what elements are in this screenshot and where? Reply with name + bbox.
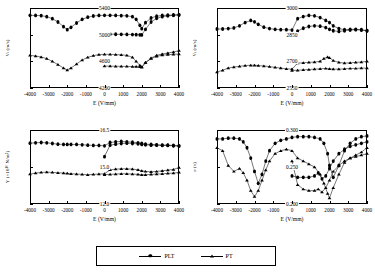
plot-area-3: 0.3000.2500.200-4000-3000-2000-100001000… bbox=[217, 130, 367, 204]
x-tick-mark bbox=[160, 201, 161, 204]
x-tick-mark bbox=[330, 201, 331, 204]
x-tick-label: -1000 bbox=[267, 207, 279, 213]
x-tick-label: 2000 bbox=[324, 207, 334, 213]
x-axis-title: E (V/mm) bbox=[30, 100, 179, 106]
y-tick-mark bbox=[30, 167, 33, 168]
x-tick-label: -1000 bbox=[80, 91, 92, 97]
x-tick-label: -1000 bbox=[267, 91, 279, 97]
x-tick-label: -2000 bbox=[61, 91, 73, 97]
x-axis-title: E (V/mm) bbox=[217, 100, 367, 106]
x-tick-mark bbox=[367, 85, 368, 88]
y-tick-label: 2700 bbox=[286, 58, 299, 64]
x-tick-label: -2000 bbox=[248, 91, 260, 97]
y-tick-mark bbox=[30, 204, 33, 205]
x-tick-label: -3000 bbox=[230, 207, 242, 213]
y-tick-mark bbox=[217, 130, 220, 131]
x-tick-mark bbox=[348, 201, 349, 204]
x-tick-label: -4000 bbox=[211, 207, 223, 213]
legend-label: PLT bbox=[164, 253, 174, 259]
y-tick-label: 3000 bbox=[286, 5, 299, 11]
x-tick-mark bbox=[123, 201, 124, 204]
x-tick-label: 4000 bbox=[362, 91, 372, 97]
y-tick-mark bbox=[217, 35, 220, 36]
x-tick-label: 4000 bbox=[362, 207, 372, 213]
x-tick-label: 4000 bbox=[174, 207, 184, 213]
x-tick-mark bbox=[86, 85, 87, 88]
x-tick-mark bbox=[142, 85, 143, 88]
x-tick-label: 1000 bbox=[118, 91, 128, 97]
x-tick-mark bbox=[311, 85, 312, 88]
y-tick-mark bbox=[217, 61, 220, 62]
panel-bottom-right: σ (ν) 0.3000.2500.200-4000-3000-2000-100… bbox=[187, 122, 375, 238]
x-tick-label: 3000 bbox=[343, 207, 353, 213]
x-tick-mark bbox=[311, 201, 312, 204]
x-tick-mark bbox=[217, 201, 218, 204]
x-tick-mark bbox=[367, 201, 368, 204]
legend-line bbox=[201, 256, 223, 257]
x-tick-label: -2000 bbox=[61, 207, 73, 213]
x-tick-label: 3000 bbox=[155, 91, 165, 97]
y-axis-label: Vₜ (m/s) bbox=[191, 39, 197, 56]
x-tick-mark bbox=[160, 85, 161, 88]
series-canvas-0 bbox=[30, 8, 179, 88]
x-tick-mark bbox=[236, 201, 237, 204]
y-axis-label: σ (ν) bbox=[192, 162, 197, 172]
y-tick-mark bbox=[30, 88, 33, 89]
y-axis-label-holder-0: Vₗ (m/s) bbox=[8, 8, 22, 88]
x-tick-label: -3000 bbox=[43, 207, 55, 213]
y-tick-label: 4600 bbox=[98, 58, 111, 64]
x-tick-mark bbox=[292, 85, 293, 88]
panel-bottom-left: Y (×10¹⁰ N/m²) 16.515.012.0-4000-3000-20… bbox=[0, 122, 187, 238]
panel-grid: Vₗ (m/s) 5400500046004200-4000-3000-2000… bbox=[0, 0, 375, 238]
x-tick-label: 2000 bbox=[324, 91, 334, 97]
x-tick-mark bbox=[348, 85, 349, 88]
x-tick-mark bbox=[67, 85, 68, 88]
y-tick-label: 2850 bbox=[286, 32, 299, 38]
y-tick-mark bbox=[217, 204, 220, 205]
x-tick-label: -4000 bbox=[24, 91, 36, 97]
x-tick-label: 1000 bbox=[306, 91, 316, 97]
circle-marker-icon bbox=[149, 254, 152, 257]
x-tick-label: 3000 bbox=[155, 207, 165, 213]
plot-area-1: 3000285027002550-4000-3000-2000-10000100… bbox=[217, 8, 367, 88]
y-axis-label-holder-2: Y (×10¹⁰ N/m²) bbox=[8, 130, 22, 204]
y-tick-label: 5000 bbox=[98, 32, 111, 38]
x-tick-mark bbox=[236, 85, 237, 88]
y-tick-mark bbox=[30, 130, 33, 131]
x-tick-mark bbox=[179, 85, 180, 88]
x-tick-label: 0 bbox=[103, 207, 106, 213]
x-tick-label: -4000 bbox=[24, 207, 36, 213]
x-tick-mark bbox=[105, 201, 106, 204]
y-tick-label: 5400 bbox=[98, 5, 111, 11]
y-axis-label: Y (×10¹⁰ N/m²) bbox=[4, 151, 10, 183]
x-tick-mark bbox=[292, 201, 293, 204]
x-tick-mark bbox=[49, 201, 50, 204]
x-tick-label: 4000 bbox=[174, 91, 184, 97]
y-axis-label: Vₗ (m/s) bbox=[4, 39, 10, 56]
legend: PLTPT bbox=[96, 246, 276, 266]
x-tick-label: 0 bbox=[291, 91, 294, 97]
x-tick-mark bbox=[123, 85, 124, 88]
y-axis-label-holder-3: σ (ν) bbox=[195, 130, 209, 204]
legend-item: PT bbox=[201, 253, 233, 259]
x-tick-mark bbox=[179, 201, 180, 204]
x-tick-mark bbox=[30, 85, 31, 88]
y-tick-mark bbox=[30, 35, 33, 36]
legend-line bbox=[139, 256, 161, 257]
plot-area-0: 5400500046004200-4000-3000-2000-10000100… bbox=[30, 8, 179, 88]
x-tick-label: -1000 bbox=[80, 207, 92, 213]
y-axis-label-holder-1: Vₜ (m/s) bbox=[195, 8, 209, 88]
x-tick-mark bbox=[255, 85, 256, 88]
y-tick-mark bbox=[217, 88, 220, 89]
series-canvas-1 bbox=[217, 8, 367, 88]
x-tick-label: 0 bbox=[103, 91, 106, 97]
x-tick-mark bbox=[273, 201, 274, 204]
y-tick-mark bbox=[217, 8, 220, 9]
y-tick-label: 16.5 bbox=[99, 127, 110, 133]
legend-item: PLT bbox=[139, 253, 174, 259]
x-tick-label: 3000 bbox=[343, 91, 353, 97]
legend-label: PT bbox=[226, 253, 233, 259]
y-tick-label: 15.0 bbox=[99, 164, 110, 170]
y-tick-mark bbox=[30, 61, 33, 62]
panel-top-right: Vₜ (m/s) 3000285027002550-4000-3000-2000… bbox=[187, 0, 375, 122]
